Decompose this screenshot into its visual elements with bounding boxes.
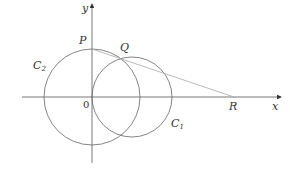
circle-c2-label: C2	[33, 59, 46, 73]
x-axis-label: x	[272, 100, 279, 113]
point-q-label: Q	[120, 41, 129, 54]
point-p-label: P	[78, 34, 87, 47]
line-pqr	[92, 49, 234, 97]
origin-label: 0	[83, 99, 89, 110]
circle-c1-label: C1	[171, 117, 184, 131]
point-r-label: R	[228, 100, 237, 113]
geometry-diagram: y x 0 P Q R C2 C1	[0, 0, 290, 169]
y-axis-label: y	[81, 2, 89, 15]
